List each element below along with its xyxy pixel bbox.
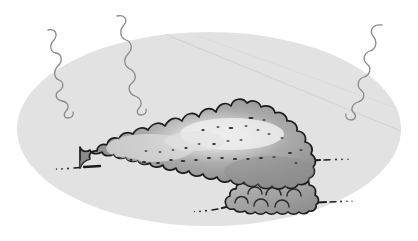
speckle: [172, 149, 175, 150]
shadow-lower-right: [224, 156, 316, 188]
speckle: [299, 149, 302, 151]
speckle: [201, 129, 204, 131]
speckle: [156, 162, 160, 164]
speckle: [181, 160, 186, 162]
speckle: [246, 158, 249, 160]
speckle: [263, 119, 266, 121]
speckle: [145, 150, 148, 152]
speckle: [233, 158, 237, 160]
speckle: [259, 157, 263, 159]
speckle: [239, 139, 242, 141]
speckle: [212, 143, 216, 145]
speckle: [169, 159, 173, 161]
illustration-canvas: Cumulus cloud with falling squiggly line…: [0, 0, 418, 241]
speckle: [216, 126, 219, 128]
speckle: [184, 147, 187, 149]
speckle: [159, 151, 162, 153]
speckle: [248, 117, 253, 119]
speckle: [226, 140, 229, 142]
speckle: [256, 129, 259, 131]
speckle: [280, 137, 283, 139]
speckle: [267, 133, 270, 135]
speckle: [244, 125, 247, 127]
highlight-center: [165, 131, 225, 151]
speckle: [294, 162, 297, 164]
speckle: [272, 156, 275, 158]
cloud-illustration-svg: [0, 0, 418, 241]
speckle: [288, 152, 292, 154]
speckle: [229, 127, 234, 129]
speckle: [142, 161, 146, 163]
speckle: [129, 159, 132, 161]
speckle: [194, 159, 198, 161]
speckle: [207, 157, 211, 159]
speckle: [220, 157, 224, 159]
speckle: [198, 143, 201, 145]
